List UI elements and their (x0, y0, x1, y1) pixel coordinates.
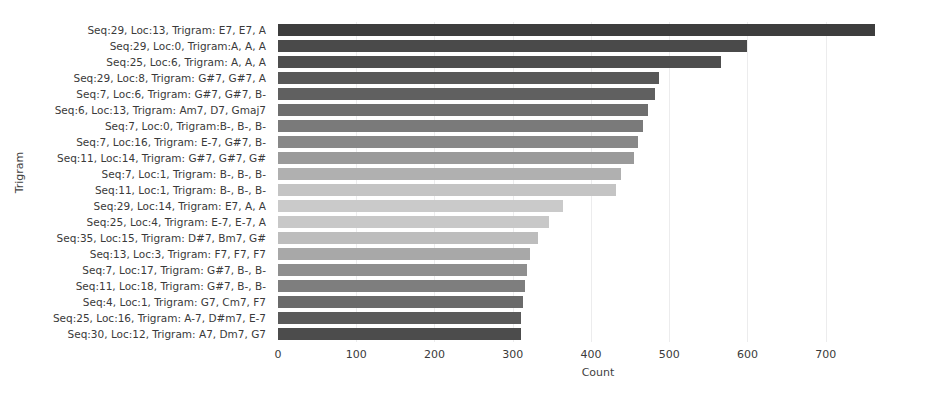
bar[interactable] (278, 88, 655, 100)
x-tick-label: 200 (424, 348, 445, 361)
bar[interactable] (278, 312, 521, 324)
bar-row (278, 24, 918, 36)
y-tick-label: Seq:7, Loc:1, Trigram: B-, B-, B- (102, 166, 266, 182)
bar-row (278, 88, 918, 100)
bar[interactable] (278, 248, 530, 260)
y-tick-label: Seq:7, Loc:0, Trigram:B-, B-, B- (105, 118, 266, 134)
bar-row (278, 200, 918, 212)
y-tick-label: Seq:25, Loc:16, Trigram: A-7, D#m7, E-7 (53, 310, 266, 326)
bar[interactable] (278, 200, 563, 212)
bar-row (278, 136, 918, 148)
y-tick-label: Seq:11, Loc:18, Trigram: G#7, B-, B- (76, 278, 266, 294)
bar-row (278, 56, 918, 68)
bar[interactable] (278, 24, 875, 36)
bar[interactable] (278, 40, 747, 52)
y-tick-label: Seq:7, Loc:16, Trigram: E-7, G#7, B- (76, 134, 266, 150)
bar-row (278, 216, 918, 228)
bar-row (278, 328, 918, 340)
y-tick-label: Seq:4, Loc:1, Trigram: G7, Cm7, F7 (83, 294, 266, 310)
y-tick-label: Seq:29, Loc:13, Trigram: E7, E7, A (87, 22, 266, 38)
bar[interactable] (278, 232, 538, 244)
bar-row (278, 248, 918, 260)
y-tick-label: Seq:25, Loc:4, Trigram: E-7, E-7, A (87, 214, 266, 230)
bar[interactable] (278, 328, 521, 340)
bar-row (278, 232, 918, 244)
bar-chart: Trigram Seq:29, Loc:13, Trigram: E7, E7,… (0, 0, 930, 395)
y-tick-label: Seq:11, Loc:14, Trigram: G#7, G#7, G# (57, 150, 266, 166)
bar[interactable] (278, 120, 643, 132)
bar[interactable] (278, 168, 621, 180)
plot-area (278, 22, 918, 342)
bar-row (278, 312, 918, 324)
bar[interactable] (278, 296, 523, 308)
bar-row (278, 296, 918, 308)
y-tick-label: Seq:29, Loc:0, Trigram:A, A, A (110, 38, 266, 54)
bar-row (278, 184, 918, 196)
bar-row (278, 264, 918, 276)
x-tick-label: 0 (275, 348, 282, 361)
bar[interactable] (278, 72, 659, 84)
y-tick-label: Seq:7, Loc:17, Trigram: G#7, B-, B- (82, 262, 266, 278)
bar[interactable] (278, 184, 616, 196)
bar-row (278, 152, 918, 164)
bar-row (278, 120, 918, 132)
bar-row (278, 280, 918, 292)
bar[interactable] (278, 104, 648, 116)
y-tick-label: Seq:25, Loc:6, Trigram: A, A, A (106, 54, 266, 70)
y-tick-label: Seq:35, Loc:15, Trigram: D#7, Bm7, G# (57, 230, 266, 246)
y-tick-label: Seq:29, Loc:8, Trigram: G#7, G#7, A (73, 70, 266, 86)
x-tick-label: 500 (659, 348, 680, 361)
bar-row (278, 40, 918, 52)
y-tick-label: Seq:30, Loc:12, Trigram: A7, Dm7, G7 (68, 326, 266, 342)
bar[interactable] (278, 280, 525, 292)
x-axis-title: Count (278, 366, 918, 379)
x-tick-label: 600 (737, 348, 758, 361)
y-tick-label: Seq:13, Loc:3, Trigram: F7, F7, F7 (90, 246, 266, 262)
bar[interactable] (278, 264, 527, 276)
bars-layer (278, 22, 918, 342)
x-tick-label: 300 (502, 348, 523, 361)
x-axis-tick-labels: 0100200300400500600700 (0, 348, 930, 364)
y-tick-label: Seq:7, Loc:6, Trigram: G#7, G#7, B- (76, 86, 266, 102)
bar[interactable] (278, 136, 638, 148)
y-tick-label: Seq:11, Loc:1, Trigram: B-, B-, B- (95, 182, 266, 198)
bar-row (278, 168, 918, 180)
bar-row (278, 104, 918, 116)
y-axis-tick-labels: Seq:29, Loc:13, Trigram: E7, E7, ASeq:29… (0, 22, 272, 342)
y-tick-label: Seq:29, Loc:14, Trigram: E7, A, A (94, 198, 266, 214)
bar[interactable] (278, 56, 721, 68)
bar-row (278, 72, 918, 84)
y-tick-label: Seq:6, Loc:13, Trigram: Am7, D7, Gmaj7 (55, 102, 266, 118)
x-tick-label: 400 (580, 348, 601, 361)
bar[interactable] (278, 152, 634, 164)
bar[interactable] (278, 216, 549, 228)
x-tick-label: 700 (815, 348, 836, 361)
x-tick-label: 100 (346, 348, 367, 361)
